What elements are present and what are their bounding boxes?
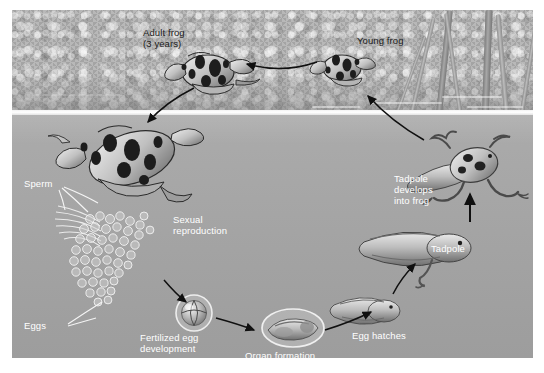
label-sexual-reproduction: Sexual reproduction <box>173 214 227 236</box>
water-ripple <box>442 96 502 98</box>
label-egg-hatches: Egg hatches <box>352 330 406 341</box>
water-ripple <box>312 106 360 108</box>
figure-canvas: Adult frog (3 years) Young frog Sperm Eg… <box>0 0 544 373</box>
frog-life-cycle-illustration: Adult frog (3 years) Young frog Sperm Eg… <box>12 10 533 358</box>
label-young-frog: Young frog <box>357 35 404 46</box>
label-eggs: Eggs <box>24 320 46 331</box>
water-background <box>12 115 533 358</box>
label-sperm: Sperm <box>24 178 52 189</box>
water-ripple <box>32 94 122 96</box>
label-organ-formation: Organ formation <box>245 350 315 358</box>
water-ripple <box>372 102 442 104</box>
label-tadpole: Tadpole <box>431 243 465 254</box>
label-fertilized-egg-development: Fertilized egg development <box>140 332 198 354</box>
water-ripple <box>467 106 523 108</box>
label-tadpole-develops-into-frog: Tadpole develops into frog <box>394 173 433 206</box>
label-adult-frog: Adult frog (3 years) <box>143 27 185 49</box>
